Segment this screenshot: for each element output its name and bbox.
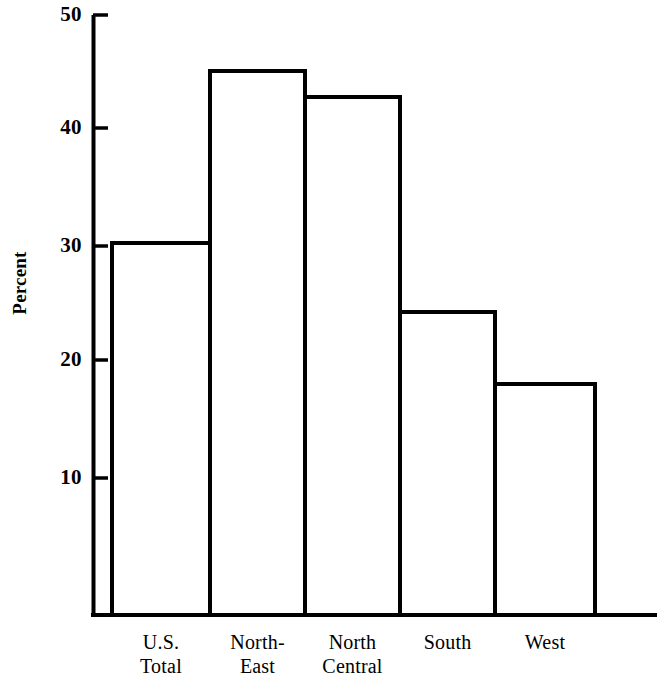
bar-1 [210, 71, 305, 615]
bars-group [112, 71, 595, 615]
x-tick-label-north-central: North Central [305, 631, 400, 678]
x-tick-label-north-east: North- East [210, 631, 305, 678]
bar-2 [305, 97, 400, 615]
bar-0 [112, 243, 210, 615]
x-tick-label-us-total: U.S. Total [112, 631, 210, 678]
bar-3 [400, 312, 495, 615]
x-tick-label-south: South [400, 631, 495, 655]
x-tick-label-west: West [495, 631, 595, 655]
plot-area [0, 0, 659, 690]
bar-chart: Percent 50 40 30 20 10 U.S. Total North-… [0, 0, 659, 690]
bar-4 [495, 384, 595, 615]
